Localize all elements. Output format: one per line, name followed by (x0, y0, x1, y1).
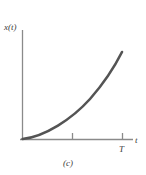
figure-panel-c: x(t) t T (c) (0, 0, 146, 175)
x-axis-label: t (135, 135, 138, 145)
x-tick-label-T: T (119, 144, 125, 154)
plot-area: x(t) t T (c) (0, 0, 146, 175)
y-axis-label: x(t) (3, 22, 17, 32)
figure-caption: (c) (63, 158, 73, 168)
curve-xt (23, 52, 123, 139)
